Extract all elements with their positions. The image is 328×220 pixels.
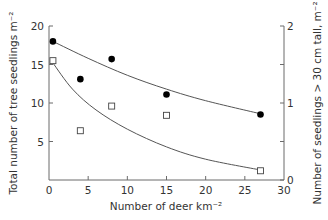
x-tick-label: 15 [160, 184, 173, 196]
fit-curves [53, 41, 261, 170]
open-square-marker [164, 112, 170, 118]
data-points [50, 38, 264, 174]
x-tick-label: 10 [121, 184, 134, 196]
filled-circle-marker [108, 56, 115, 63]
x-ticks: 051015202530 [46, 176, 291, 196]
y-tick-label: 10 [31, 97, 44, 109]
right-y-tick-label: 0 [287, 174, 294, 186]
left-y-axis-label: Total number of tree seedlings m⁻² [7, 11, 19, 195]
y-tick-label: 15 [31, 59, 44, 71]
chart: 051015202530 5101520 012 Number of deer … [0, 0, 328, 220]
open-square-marker [50, 58, 56, 64]
right-y-tick-label: 2 [287, 20, 294, 32]
open-square-marker [109, 103, 115, 109]
fit-curve [53, 41, 261, 113]
x-tick-label: 20 [199, 184, 212, 196]
open-square-marker [258, 168, 264, 174]
filled-circle-marker [163, 91, 170, 98]
filled-circle-marker [77, 76, 84, 83]
left-y-ticks: 5101520 [31, 20, 53, 148]
x-tick-label: 0 [46, 184, 53, 196]
fit-curve [53, 63, 261, 170]
y-tick-label: 20 [31, 20, 44, 32]
x-tick-label: 5 [85, 184, 92, 196]
open-square-marker [77, 128, 83, 134]
x-tick-label: 25 [238, 184, 251, 196]
right-y-ticks: 012 [280, 20, 294, 186]
right-y-tick-label: 1 [287, 97, 294, 109]
right-y-axis-label: Number of seedlings > 30 cm tall, m⁻² [311, 1, 323, 204]
filled-circle-marker [50, 38, 57, 45]
x-axis-label: Number of deer km⁻² [110, 200, 222, 212]
y-tick-label: 5 [37, 136, 44, 148]
plot-axes [49, 26, 284, 180]
filled-circle-marker [257, 111, 264, 118]
